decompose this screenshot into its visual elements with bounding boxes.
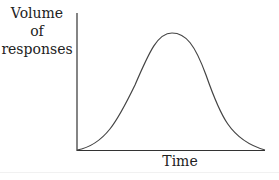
x-axis-label: Time (140, 153, 220, 169)
divider (0, 172, 279, 173)
bell-curve (77, 33, 265, 150)
